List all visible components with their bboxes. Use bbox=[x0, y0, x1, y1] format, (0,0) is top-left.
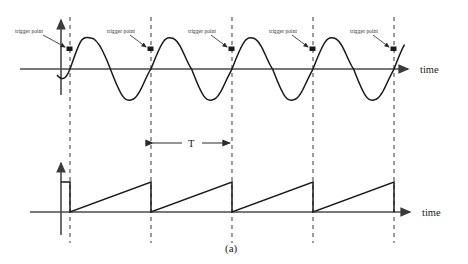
trigger-markers bbox=[67, 47, 397, 52]
figure-caption: (a) bbox=[225, 242, 238, 255]
trigger-point-label-1: trigger point bbox=[15, 28, 44, 34]
leader-line-5 bbox=[373, 35, 389, 47]
trigger-marker-4 bbox=[310, 47, 316, 52]
trigger-marker-3 bbox=[229, 47, 235, 52]
trigger-point-label-2: trigger point bbox=[107, 28, 136, 34]
bottom-axis-label-time: time bbox=[422, 207, 441, 218]
bottom-plot: time bbox=[30, 163, 441, 235]
trigger-marker-2 bbox=[148, 47, 154, 52]
sawtooth-waveform bbox=[61, 182, 394, 212]
trigger-point-label-3: trigger point bbox=[188, 28, 217, 34]
trigger-marker-1 bbox=[67, 47, 73, 52]
period-label-T: T bbox=[188, 138, 195, 149]
waveform-figure: time trigger point trigger poin bbox=[0, 0, 468, 264]
period-dimension: T bbox=[153, 134, 230, 150]
trigger-point-label-4: trigger point bbox=[269, 28, 298, 34]
leader-line-2 bbox=[130, 35, 146, 47]
top-plot: time trigger point trigger poin bbox=[15, 20, 439, 100]
figure-container: time trigger point trigger poin bbox=[0, 0, 468, 264]
trigger-leader-lines bbox=[43, 35, 389, 47]
trigger-point-label-5: trigger point bbox=[350, 28, 379, 34]
leader-line-4 bbox=[292, 35, 308, 47]
trigger-marker-5 bbox=[391, 47, 397, 52]
leader-line-3 bbox=[211, 35, 227, 47]
top-axis-label-time: time bbox=[420, 64, 439, 75]
